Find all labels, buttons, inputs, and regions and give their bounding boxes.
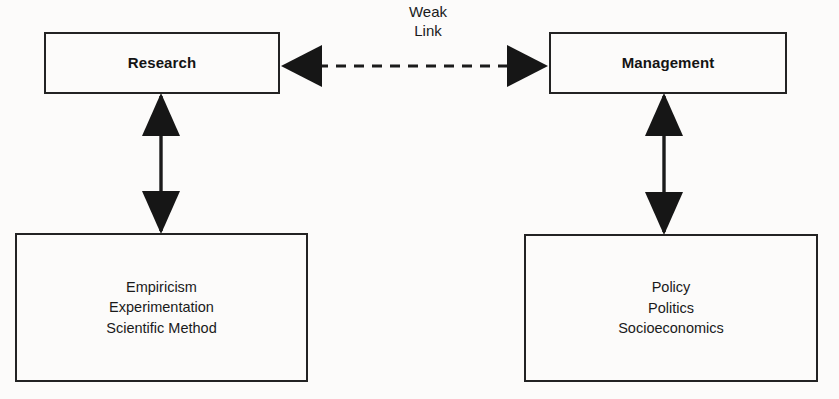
- management-basis-arrowhead-down: [645, 192, 683, 235]
- weak-link-label-line2: Link: [368, 22, 488, 41]
- management-basis-arrowhead-up: [645, 93, 683, 136]
- weak-link-arrowhead-left: [281, 45, 322, 87]
- node-research-basis-line2: Experimentation: [106, 297, 216, 318]
- node-management-basis-line3: Socioeconomics: [618, 318, 724, 339]
- node-management-basis-list: Policy Politics Socioeconomics: [618, 277, 724, 339]
- weak-link-label-line1: Weak: [368, 3, 488, 22]
- weak-link-label: Weak Link: [368, 3, 488, 41]
- weak-link-connector: [281, 45, 548, 87]
- diagram-canvas: Weak Link Research Management Empiricism…: [0, 0, 839, 399]
- node-research-basis-list: Empiricism Experimentation Scientific Me…: [106, 277, 216, 339]
- node-research-basis-line3: Scientific Method: [106, 318, 216, 339]
- management-basis-connector: [645, 93, 683, 235]
- node-research-basis: Empiricism Experimentation Scientific Me…: [15, 233, 308, 382]
- node-research: Research: [44, 32, 280, 94]
- research-basis-arrowhead-up: [142, 93, 180, 136]
- node-management: Management: [549, 32, 787, 94]
- node-research-basis-line1: Empiricism: [106, 277, 216, 298]
- research-basis-connector: [142, 93, 180, 234]
- node-management-basis: Policy Politics Socioeconomics: [524, 234, 818, 382]
- node-research-label: Research: [128, 55, 196, 72]
- node-management-basis-line1: Policy: [618, 277, 724, 298]
- node-management-basis-line2: Politics: [618, 298, 724, 319]
- research-basis-arrowhead-down: [142, 191, 180, 234]
- node-management-label: Management: [622, 55, 715, 72]
- weak-link-arrowhead-right: [507, 45, 548, 87]
